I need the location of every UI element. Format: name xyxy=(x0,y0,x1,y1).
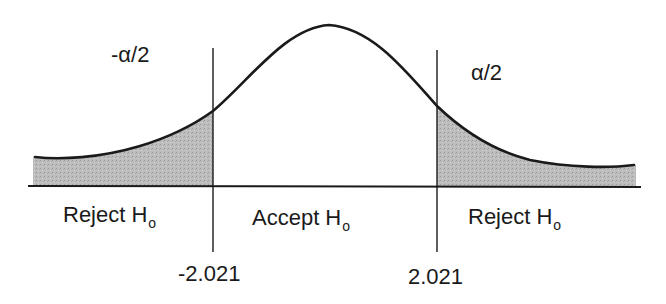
accept-region-label: Accept Ho xyxy=(252,207,350,233)
left-critical-value: -2.021 xyxy=(178,263,240,285)
x-axis xyxy=(28,186,641,187)
accept-text: Accept H xyxy=(252,205,341,230)
left-rejection-area xyxy=(33,111,213,186)
left-reject-subscript: o xyxy=(148,215,156,231)
right-reject-text: Reject H xyxy=(468,204,552,229)
right-critical-value: 2.021 xyxy=(408,266,463,288)
left-tail-label: -α/2 xyxy=(111,44,149,66)
right-reject-subscript: o xyxy=(553,217,561,233)
right-rejection-area xyxy=(437,106,636,187)
right-reject-region-label: Reject Ho xyxy=(468,206,561,232)
left-reject-region-label: Reject Ho xyxy=(63,204,156,230)
right-tail-label: α/2 xyxy=(471,62,502,84)
normal-distribution-diagram xyxy=(0,0,666,304)
accept-subscript: o xyxy=(342,218,350,234)
left-reject-text: Reject H xyxy=(63,202,147,227)
